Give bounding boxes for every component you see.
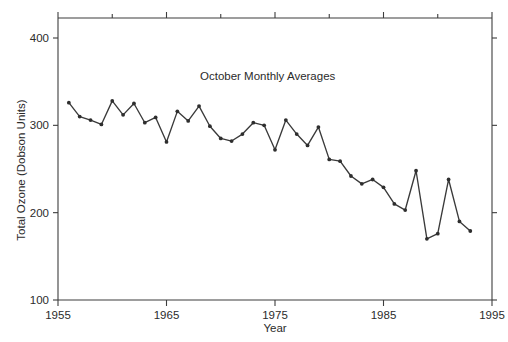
- x-tick-label-1975: 1975: [262, 309, 288, 321]
- data-point-1986: [392, 202, 396, 206]
- data-point-1965: [165, 140, 169, 144]
- data-point-1973: [251, 121, 255, 125]
- ozone-trend-line: [69, 101, 470, 239]
- data-point-1962: [132, 102, 136, 106]
- y-tick-label-400: 400: [30, 32, 49, 44]
- data-point-1991: [447, 178, 451, 182]
- data-point-1983: [360, 182, 364, 186]
- data-point-1981: [338, 159, 342, 163]
- data-point-1967: [186, 119, 190, 123]
- y-tick-label-200: 200: [30, 207, 49, 219]
- x-tick-label-1955: 1955: [45, 309, 71, 321]
- data-point-1985: [382, 185, 386, 189]
- data-point-1990: [436, 232, 440, 236]
- data-point-1977: [295, 132, 299, 136]
- data-point-1959: [100, 123, 104, 127]
- data-point-1993: [468, 229, 472, 233]
- data-point-1961: [121, 113, 125, 117]
- y-tick-label-300: 300: [30, 119, 49, 131]
- y-tick-label-100: 100: [30, 294, 49, 306]
- data-series-group: [67, 99, 472, 241]
- data-point-1964: [154, 116, 158, 120]
- data-point-1989: [425, 237, 429, 241]
- y-axis-label: Total Ozone (Dobson Units): [15, 99, 27, 240]
- data-point-1987: [403, 208, 407, 212]
- data-point-1972: [241, 132, 245, 136]
- data-point-1971: [230, 139, 234, 143]
- x-tick-label-1995: 1995: [479, 309, 505, 321]
- ticks-group: [53, 12, 497, 306]
- data-point-1988: [414, 169, 418, 173]
- x-tick-label-1985: 1985: [371, 309, 397, 321]
- data-point-1966: [175, 109, 179, 113]
- data-point-1980: [327, 157, 331, 161]
- data-point-1960: [110, 99, 114, 103]
- data-point-1982: [349, 174, 353, 178]
- data-point-1992: [458, 220, 462, 224]
- data-point-1975: [273, 148, 277, 152]
- data-point-1970: [219, 137, 223, 141]
- data-point-1956: [67, 101, 71, 105]
- data-point-1957: [78, 115, 82, 119]
- data-point-1979: [317, 125, 321, 129]
- axes-group: [58, 18, 492, 300]
- data-point-1974: [262, 123, 266, 127]
- x-axis-label: Year: [263, 322, 286, 334]
- chart-plot-area: 10020030040019551965197519851995 October…: [0, 0, 508, 342]
- data-point-1978: [306, 144, 310, 148]
- data-point-1976: [284, 118, 288, 122]
- ozone-chart-figure: 10020030040019551965197519851995 October…: [0, 0, 508, 342]
- data-point-1958: [89, 118, 93, 122]
- chart-title: October Monthly Averages: [200, 70, 336, 82]
- data-point-1968: [197, 104, 201, 108]
- data-point-1984: [371, 178, 375, 182]
- data-point-1969: [208, 124, 212, 128]
- x-tick-label-1965: 1965: [154, 309, 180, 321]
- data-point-1963: [143, 121, 147, 125]
